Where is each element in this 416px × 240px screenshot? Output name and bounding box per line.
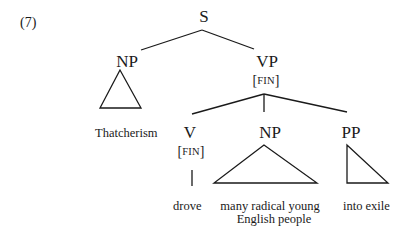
np-object-triangle [214,145,317,183]
vp-feature-close-bracket: ] [275,73,280,88]
branch-vp-to-pp [264,94,347,112]
node-np-object: NP [259,124,281,141]
node-v: V [184,124,196,141]
v-feature: [FIN] [178,145,205,159]
example-number: (7) [20,16,36,30]
v-feature-fin: FIN [182,146,200,157]
vp-feature: [FIN] [253,74,280,88]
vp-feature-fin: FIN [257,75,275,86]
np-subject-triangle [100,70,141,108]
terminal-np-object-line1: many radical young [220,200,319,213]
v-feature-close-bracket: ] [200,144,205,159]
terminal-into-exile: into exile [343,200,390,213]
node-np-subject: NP [116,53,138,70]
terminal-thatcherism: Thatcherism [95,127,157,140]
node-vp: VP [256,53,278,70]
node-s: S [199,8,208,25]
branch-s-to-np [141,30,202,50]
terminal-np-object-line2: English people [237,213,312,226]
branch-s-to-vp [202,30,254,49]
terminal-drove: drove [173,200,201,213]
node-pp: PP [342,124,361,141]
pp-triangle [347,145,388,183]
branch-vp-to-v [192,94,264,114]
